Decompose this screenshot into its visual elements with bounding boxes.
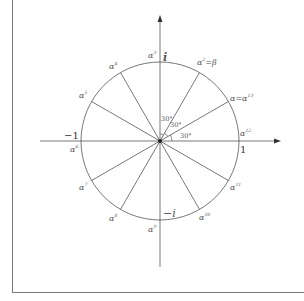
point-label-alpha9: α9 xyxy=(148,224,156,234)
radius-line xyxy=(92,102,160,142)
y-axis-label-i: i xyxy=(163,51,167,64)
radius-line xyxy=(92,141,160,181)
y-axis-label-minus-i: −i xyxy=(163,207,176,220)
point-label-alpha7: α7 xyxy=(79,182,87,192)
radius-line xyxy=(160,141,228,181)
angle-arc-30-60 xyxy=(165,133,168,136)
radius-line xyxy=(121,141,161,209)
point-label-alpha8: α8 xyxy=(109,213,117,223)
angle-arc-60-90 xyxy=(160,134,164,135)
radius-line xyxy=(160,73,200,141)
y-axis-arrow-icon xyxy=(158,15,163,22)
x-axis-arrow-icon xyxy=(274,139,281,144)
angle-arc-0-30 xyxy=(170,135,172,141)
point-label-alpha4: α4 xyxy=(109,61,117,71)
point-label-alpha6: α6 xyxy=(70,144,78,154)
angle-label-30-60: 30° xyxy=(170,121,182,129)
radius-line xyxy=(121,73,161,141)
radius-line xyxy=(160,141,200,209)
point-label-alpha10: α10 xyxy=(199,212,210,222)
point-label-alpha11: α11 xyxy=(230,182,241,192)
unit-circle-diagram: 30° 30° 30° 1 −1 i −i α12 α=α13 α2=β α3 … xyxy=(0,0,304,301)
origin-point xyxy=(158,139,162,143)
x-axis-label-minus-one: −1 xyxy=(64,130,79,141)
point-label-alpha12: α12 xyxy=(240,128,251,138)
angle-label-0-30: 30° xyxy=(180,132,192,140)
point-label-alpha5: α5 xyxy=(79,90,87,100)
point-label-alpha3: α3 xyxy=(148,50,156,60)
x-axis-label-one: 1 xyxy=(240,144,246,155)
point-label-alpha1: α=α13 xyxy=(230,93,253,103)
point-label-alpha2: α2=β xyxy=(197,57,217,67)
